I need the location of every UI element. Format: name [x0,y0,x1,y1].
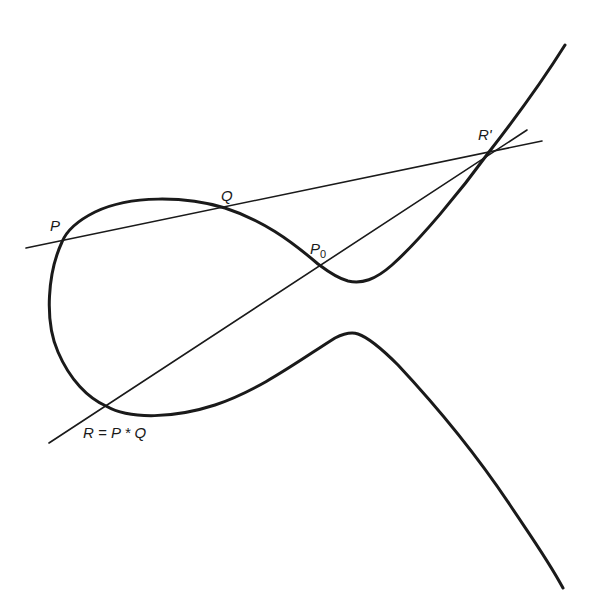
label-p0-subscript: 0 [320,248,326,260]
label-p0-main: P [310,240,320,257]
elliptic-curve-diagram [0,0,594,606]
line-r-p0-rprime [49,130,527,443]
label-point-p: P [50,218,60,233]
label-point-q: Q [221,188,233,203]
label-point-r: R = P * Q [83,425,146,440]
label-point-p0: P0 [310,241,326,260]
label-point-r-prime: R' [478,127,492,142]
line-p-q-rprime [26,141,542,248]
